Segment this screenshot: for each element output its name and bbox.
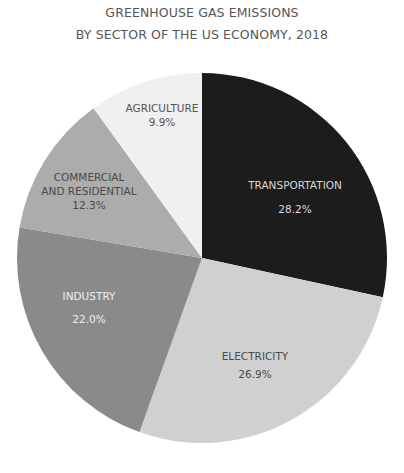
slice-value-label: 22.0% <box>72 313 105 325</box>
slice-value-label: 12.3% <box>72 199 105 211</box>
slice-label: COMMERCIAL <box>54 171 125 183</box>
slice-value-label: 28.2% <box>278 203 311 215</box>
slice-value-label: 26.9% <box>238 368 271 380</box>
slice-label: TRANSPORTATION <box>247 179 342 191</box>
pie-chart: TRANSPORTATION28.2%ELECTRICITY26.9%INDUS… <box>0 0 404 473</box>
slice-value-label: 9.9% <box>149 116 176 128</box>
slice-label: ELECTRICITY <box>222 350 289 362</box>
slice-label: INDUSTRY <box>63 290 116 302</box>
slice-label: AND RESIDENTIAL <box>41 185 136 197</box>
slice-label: AGRICULTURE <box>126 102 199 114</box>
